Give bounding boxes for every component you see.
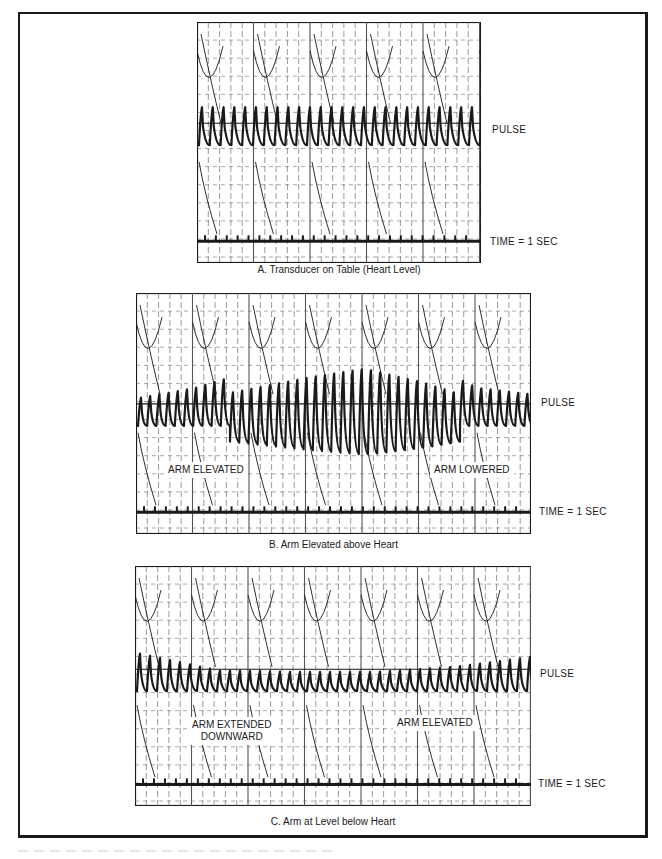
panel-c-pulse-label: PULSE <box>540 668 574 679</box>
panel-b-caption: B. Arm Elevated above Heart <box>136 539 531 550</box>
cropped-footer-text <box>18 850 338 852</box>
panel-b-trace <box>136 293 531 534</box>
panel-a-pulse-label: PULSE <box>492 124 526 135</box>
panel-c-caption: C. Arm at Level below Heart <box>135 816 531 827</box>
panel-c-trace <box>135 566 531 806</box>
strip-chart-svg <box>197 22 481 263</box>
strip-chart-svg <box>136 293 531 534</box>
panel-b-arm-elevated-label: ARM ELEVATED <box>164 462 248 478</box>
panel-a-trace <box>197 22 481 263</box>
panel-c-arm-extended-label: ARM EXTENDED DOWNWARD <box>188 717 275 745</box>
strip-chart-svg <box>135 566 531 806</box>
panel-a-caption: A. Transducer on Table (Heart Level) <box>197 264 481 275</box>
panel-b-pulse-label: PULSE <box>541 397 575 408</box>
panel-b-time-label: TIME = 1 SEC <box>539 506 607 517</box>
panel-c-arm-elevated-label: ARM ELEVATED <box>393 715 477 731</box>
panel-b-arm-lowered-label: ARM LOWERED <box>430 462 514 478</box>
panel-c-time-label: TIME = 1 SEC <box>538 778 606 789</box>
panel-a-time-label: TIME = 1 SEC <box>490 236 558 247</box>
